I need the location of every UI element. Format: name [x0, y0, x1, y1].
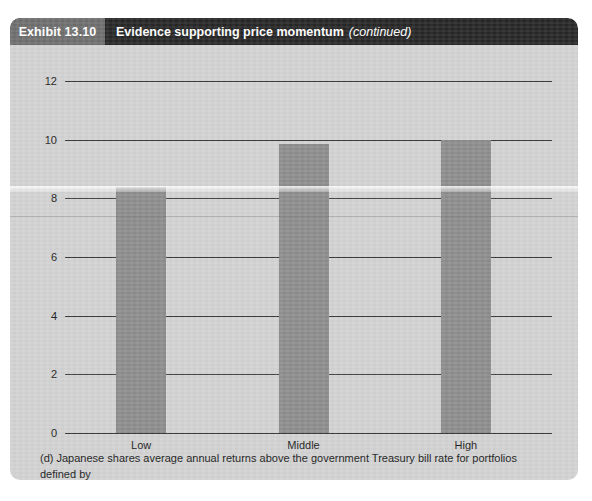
bar-low: [116, 187, 166, 433]
y-axis-tick-label: 8: [51, 192, 57, 204]
x-axis-line: [65, 433, 552, 434]
bar-chart: 024681012 LowMiddleHigh: [10, 45, 578, 435]
y-axis-tick-label: 0: [51, 427, 57, 439]
exhibit-title-wrap: Evidence supporting price momentum (cont…: [105, 18, 578, 45]
x-axis-tick-label: Middle: [287, 439, 319, 451]
exhibit-panel: Exhibit 13.10 Evidence supporting price …: [10, 18, 578, 480]
x-axis-tick-label: High: [455, 439, 478, 451]
y-axis-tick-label: 12: [45, 75, 57, 87]
exhibit-header: Exhibit 13.10 Evidence supporting price …: [10, 18, 578, 45]
plot-area: 024681012 LowMiddleHigh: [65, 45, 552, 435]
y-axis-tick-label: 10: [45, 134, 57, 146]
y-axis-tick-label: 4: [51, 310, 57, 322]
bar-high: [441, 140, 491, 433]
exhibit-title: Evidence supporting price momentum: [116, 25, 344, 39]
x-axis-tick-label: Low: [131, 439, 151, 451]
bar-middle: [279, 144, 329, 433]
exhibit-number-label: Exhibit 13.10: [19, 25, 97, 39]
exhibit-number-box: Exhibit 13.10: [10, 18, 105, 45]
gridline: [65, 81, 552, 82]
y-axis-tick-label: 6: [51, 251, 57, 263]
figure-caption: (d) Japanese shares average annual retur…: [40, 451, 550, 480]
exhibit-title-continued: (continued): [349, 25, 412, 39]
y-axis-tick-label: 2: [51, 368, 57, 380]
caption-line-1: (d) Japanese shares average annual retur…: [40, 452, 517, 480]
